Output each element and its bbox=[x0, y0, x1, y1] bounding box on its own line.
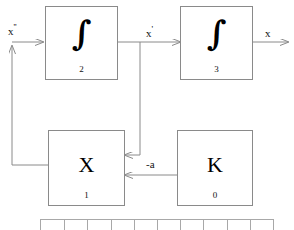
block-state-x[interactable]: X 1 bbox=[48, 130, 125, 206]
signal-label-minus-a: -a bbox=[146, 158, 155, 170]
ruler-tick bbox=[250, 220, 251, 230]
signal-label-x-prime: x' bbox=[146, 24, 153, 39]
block-number-label: 1 bbox=[49, 190, 124, 200]
signal-prime: '' bbox=[14, 22, 17, 32]
ruler-tick bbox=[111, 220, 112, 230]
block-symbol-label: K bbox=[178, 153, 252, 177]
ruler-tick bbox=[157, 220, 158, 230]
block-number-label: 3 bbox=[181, 64, 252, 74]
scale-ruler bbox=[40, 219, 274, 230]
block-diagram: ∫ 2 ∫ 3 X 1 K 0 x'' x' x -a bbox=[0, 0, 294, 230]
block-number-label: 2 bbox=[46, 64, 117, 74]
integral-icon: ∫ bbox=[46, 13, 117, 53]
block-integrator-3[interactable]: ∫ 3 bbox=[180, 6, 253, 80]
ruler-tick bbox=[87, 220, 88, 230]
ruler-tick bbox=[227, 220, 228, 230]
signal-prime: ' bbox=[152, 24, 154, 34]
signal-base: x bbox=[265, 27, 271, 39]
ruler-tick bbox=[203, 220, 204, 230]
wire-xprime-feedback-to-blockX bbox=[125, 42, 140, 155]
ruler-tick bbox=[134, 220, 135, 230]
block-symbol-label: X bbox=[49, 153, 124, 177]
integral-icon: ∫ bbox=[181, 13, 252, 53]
block-integrator-2[interactable]: ∫ 2 bbox=[45, 6, 118, 80]
signal-label-x-output: x bbox=[265, 24, 271, 39]
block-gain-k[interactable]: K 0 bbox=[177, 130, 253, 206]
ruler-tick bbox=[64, 220, 65, 230]
block-number-label: 0 bbox=[178, 190, 252, 200]
signal-label-x-double-prime: x'' bbox=[8, 22, 17, 37]
wire-blockX-feedback-to-input bbox=[12, 46, 48, 165]
ruler-tick bbox=[180, 220, 181, 230]
